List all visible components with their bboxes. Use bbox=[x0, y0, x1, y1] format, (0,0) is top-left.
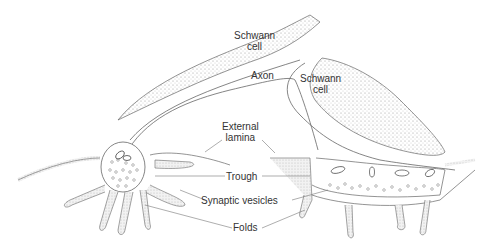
postsynaptic-membrane bbox=[18, 158, 100, 180]
label-schwann-cell-right: Schwann cell bbox=[300, 73, 341, 95]
label-synaptic-vesicles: Synaptic vesicles bbox=[201, 195, 278, 206]
left-terminal bbox=[101, 142, 145, 192]
label-schwann-cell-upper: Schwann cell bbox=[234, 30, 275, 52]
upper-schwann-cell bbox=[118, 15, 320, 120]
label-folds: Folds bbox=[233, 222, 257, 233]
label-trough: Trough bbox=[226, 171, 257, 182]
label-axon: Axon bbox=[251, 70, 274, 81]
label-external-lamina: External lamina bbox=[222, 121, 259, 143]
